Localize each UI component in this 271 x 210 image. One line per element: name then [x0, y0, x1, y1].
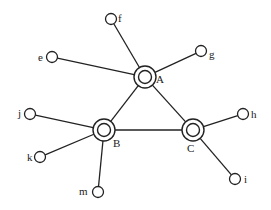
hub-label-B: B: [113, 137, 120, 149]
leaf-label-f: f: [118, 12, 122, 24]
hub-inner-ring: [139, 71, 152, 84]
leaf-node-e: [47, 52, 58, 63]
edge-A-B: [111, 86, 139, 122]
edge-B-k: [45, 134, 94, 155]
hub-inner-ring: [187, 124, 200, 137]
leaf-node-m: [93, 187, 104, 198]
hub-node-A: [134, 66, 156, 88]
edge-C-h: [203, 116, 237, 127]
leaf-label-m: m: [79, 185, 88, 197]
hub-node-C: [182, 119, 204, 141]
edges-layer: [35, 24, 237, 187]
nodes-layer: [25, 14, 249, 198]
edge-A-g: [155, 53, 196, 72]
leaf-node-h: [238, 109, 249, 120]
leaf-node-g: [196, 46, 207, 57]
leaf-label-h: h: [251, 108, 257, 120]
leaf-node-i: [230, 174, 241, 185]
leaf-node-j: [25, 109, 36, 120]
edge-B-m: [99, 141, 103, 187]
leaf-label-g: g: [209, 48, 215, 60]
network-diagram: ABCefgjkmhi: [0, 0, 271, 210]
edge-A-f: [114, 24, 140, 68]
edge-C-i: [200, 138, 231, 174]
hub-label-C: C: [187, 142, 194, 154]
edge-A-C: [152, 85, 185, 122]
leaf-label-j: j: [17, 107, 21, 119]
leaf-node-k: [35, 152, 46, 163]
labels-layer: ABCefgjkmhi: [17, 12, 257, 197]
leaf-label-i: i: [244, 173, 247, 185]
hub-label-A: A: [156, 73, 164, 85]
hub-node-B: [93, 119, 115, 141]
hub-inner-ring: [98, 124, 111, 137]
leaf-label-e: e: [38, 51, 43, 63]
edge-A-e: [57, 58, 134, 75]
leaf-label-k: k: [27, 151, 33, 163]
edge-B-j: [35, 115, 93, 128]
leaf-node-f: [106, 14, 117, 25]
